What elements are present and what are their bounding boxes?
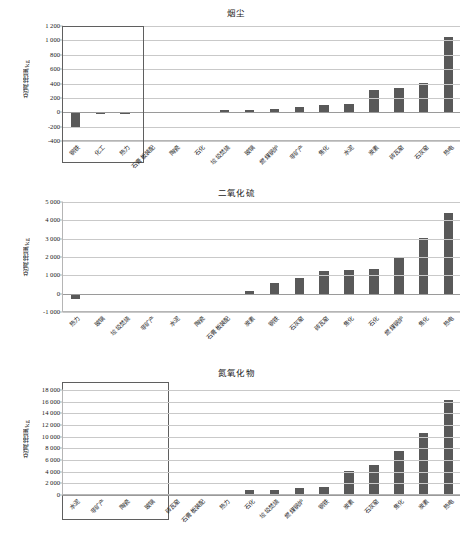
x-axis-tick-label: 非矿产 — [89, 498, 106, 515]
x-axis-tick-label: 热电 — [442, 498, 455, 511]
y-axis-tick-label: 2 000 — [45, 254, 63, 261]
y-axis-tick-label: 16 000 — [42, 398, 63, 405]
chart-title: 氮氧化物 — [0, 366, 473, 378]
gridline — [63, 141, 460, 142]
chart-panel-smoke-dust: 烟尘 总减排量/kg -400-20002004006008001 0001 2… — [0, 0, 473, 180]
gridline — [63, 26, 460, 27]
x-axis-tick-label: 垃圾焚烧 — [259, 498, 281, 520]
figure-root: 烟尘 总减排量/kg -400-20002004006008001 0001 2… — [0, 0, 473, 541]
bar — [344, 270, 353, 294]
y-axis-tick-label: 2 000 — [45, 480, 63, 487]
y-axis-tick-label: 0 — [57, 109, 63, 116]
x-axis-tick-label: 炭素 — [342, 498, 355, 511]
gridline — [63, 294, 460, 295]
x-axis-tick-label: 钢铁 — [318, 498, 331, 511]
gridline — [63, 390, 460, 391]
x-axis-tick-label: 石化 — [193, 144, 206, 157]
chart-title: 二氧化硫 — [0, 186, 473, 198]
x-axis-tick-label: 玻璃 — [243, 144, 256, 157]
x-axis-tick-label: 炭素 — [417, 498, 430, 511]
gridline — [63, 460, 460, 461]
gridline — [63, 84, 460, 85]
gridline — [63, 425, 460, 426]
y-axis-tick-label: 800 — [50, 51, 63, 58]
x-axis-tick-label: 水泥 — [168, 315, 181, 328]
plot-area: 02 0004 0006 0008 00010 00012 00014 0001… — [62, 390, 460, 495]
x-axis-tick-label: 非矿产 — [139, 315, 156, 332]
gridline — [63, 257, 460, 258]
gridline — [63, 220, 460, 221]
x-axis-tick-label: 垃圾焚烧 — [209, 144, 231, 166]
bar — [344, 104, 353, 113]
y-axis-tick-label: 6 000 — [45, 457, 63, 464]
x-axis-tick-label: 石膏板装配 — [130, 144, 156, 170]
bar — [369, 465, 378, 495]
y-axis-tick-label: -400 — [48, 138, 63, 145]
gridline — [63, 127, 460, 128]
gridline — [63, 55, 460, 56]
x-axis-tick-label: 焦化 — [417, 315, 430, 328]
bar — [369, 90, 378, 112]
bar — [319, 105, 328, 113]
x-axis-tick-label: 石膏板装配 — [205, 315, 231, 341]
x-axis-tick-label: 钢铁 — [69, 144, 82, 157]
y-axis-tick-label: -1 000 — [43, 309, 63, 316]
y-axis-label: 总减排量/kg — [22, 60, 32, 98]
y-axis-tick-label: 1 000 — [45, 272, 63, 279]
x-axis-tick-label: 石灰窑 — [288, 315, 305, 332]
bar-series — [63, 390, 460, 495]
x-axis-tick-label: 热力 — [119, 144, 132, 157]
y-axis-tick-label: 4 000 — [45, 468, 63, 475]
y-axis-tick-label: -200 — [48, 123, 63, 130]
x-axis-tick-label: 砖瓦窑 — [164, 498, 181, 515]
y-axis-tick-label: 10 000 — [42, 433, 63, 440]
chart-panel-nitrogen-oxides: 氮氧化物 总减排量/kg 02 0004 0006 0008 00010 000… — [0, 360, 473, 541]
y-axis-tick-label: 18 000 — [42, 387, 63, 394]
bar — [295, 278, 304, 293]
x-axis-tick-label: 热力 — [218, 498, 231, 511]
x-axis-tick-label: 炭素 — [243, 315, 256, 328]
bar — [419, 238, 428, 294]
gridline — [63, 402, 460, 403]
gridline — [63, 112, 460, 113]
gridline — [63, 40, 460, 41]
y-axis-tick-label: 400 — [50, 80, 63, 87]
gridline — [63, 472, 460, 473]
x-axis-tick-label: 玻璃 — [143, 498, 156, 511]
x-axis-tick-label: 石化 — [367, 315, 380, 328]
y-axis-tick-label: 5 000 — [45, 199, 63, 206]
x-axis-tick-label: 焦化 — [342, 315, 355, 328]
x-axis-tick-label: 垃圾焚烧 — [110, 315, 132, 337]
y-axis-tick-label: 8 000 — [45, 445, 63, 452]
x-axis-tick-label: 燃煤锅炉 — [384, 315, 406, 337]
bar — [444, 213, 453, 294]
x-axis-tick-label: 热力 — [69, 315, 82, 328]
bar — [444, 37, 453, 112]
gridline — [63, 483, 460, 484]
y-axis-tick-label: 200 — [50, 95, 63, 102]
x-axis-tick-label: 钢铁 — [268, 315, 281, 328]
plot-area: -400-20002004006008001 0001 200 — [62, 26, 460, 141]
x-axis-tick-label: 砖瓦窑 — [388, 144, 405, 161]
y-axis-label: 总减排量/kg — [22, 420, 32, 458]
plot-area: -1 00001 0002 0003 0004 0005 000 — [62, 202, 460, 312]
y-axis-tick-label: 12 000 — [42, 422, 63, 429]
y-axis-tick-label: 600 — [50, 66, 63, 73]
bar — [419, 433, 428, 495]
bar — [270, 283, 279, 294]
gridline — [63, 69, 460, 70]
y-axis-tick-label: 3 000 — [45, 235, 63, 242]
gridline — [63, 239, 460, 240]
bar — [394, 451, 403, 495]
x-axis-tick-label: 石化 — [243, 498, 256, 511]
gridline — [63, 312, 460, 313]
x-axis-tick-label: 焦化 — [392, 498, 405, 511]
chart-title: 烟尘 — [0, 6, 473, 18]
bar — [369, 269, 378, 294]
x-axis-line — [63, 311, 460, 312]
x-axis-tick-label: 玻璃 — [94, 315, 107, 328]
x-axis-tick-label: 陶瓷 — [168, 144, 181, 157]
x-axis-tick-label: 砖瓦窑 — [313, 315, 330, 332]
x-axis-tick-label: 水泥 — [342, 144, 355, 157]
y-axis-label: 总减排量/kg — [22, 238, 32, 276]
